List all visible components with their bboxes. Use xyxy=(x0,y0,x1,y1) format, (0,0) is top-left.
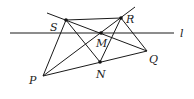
segment-s-r xyxy=(66,18,121,20)
label-q: Q xyxy=(149,53,158,66)
label-m: M xyxy=(95,37,108,50)
point-s xyxy=(64,18,68,22)
label-l: l xyxy=(180,27,184,40)
point-r xyxy=(119,16,123,20)
label-p: P xyxy=(28,74,37,87)
point-n xyxy=(98,60,102,64)
point-m xyxy=(99,31,103,35)
segment-p-q xyxy=(43,51,147,76)
label-n: N xyxy=(95,68,106,81)
geometry-diagram: S R M N P Q l xyxy=(0,0,194,99)
label-s: S xyxy=(50,21,58,34)
label-r: R xyxy=(125,13,134,26)
